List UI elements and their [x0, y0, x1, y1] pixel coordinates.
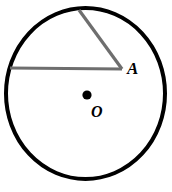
center-point-dot	[82, 90, 91, 99]
circle-diagram-canvas	[0, 0, 172, 192]
angle-ray-horizontal	[10, 68, 122, 69]
angle-ray-diagonal	[79, 10, 122, 69]
point-label-o: O	[91, 104, 103, 120]
geometry-figure: A O	[0, 0, 172, 192]
point-label-a: A	[127, 60, 138, 77]
